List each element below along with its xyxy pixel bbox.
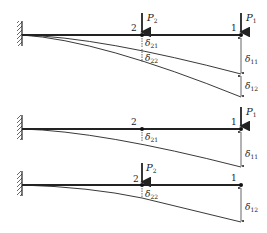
node-1 [239, 33, 243, 37]
node-2 [140, 183, 144, 187]
label-delta-12: δ12 [245, 81, 258, 92]
label-delta-22: δ22 [145, 53, 158, 64]
label-delta-21: δ21 [145, 38, 158, 49]
label-delta-11: δ11 [245, 54, 258, 65]
fixed-support-icon [17, 21, 22, 46]
node-2-label: 2 [131, 117, 137, 127]
load-label-p1: P1 [245, 12, 257, 24]
load-label-p2: P2 [146, 12, 158, 24]
node-1 [239, 183, 243, 187]
deflected-shape [22, 129, 241, 167]
node-1-label: 1 [231, 23, 237, 33]
label-delta-11: δ11 [245, 149, 258, 160]
node-2 [140, 33, 144, 37]
deflected-shape-p1 [22, 35, 241, 74]
node-1-label: 1 [231, 117, 237, 127]
panel-load-p2: 2 1 P2 δ22 δ12 [17, 162, 258, 222]
label-delta-21: δ21 [145, 132, 158, 143]
label-delta-22: δ22 [145, 189, 158, 200]
panel-load-p1: 2 1 P1 δ21 δ11 [17, 106, 258, 167]
node-2-label: 2 [133, 174, 139, 184]
panel-combined: 2 1 P2 P1 δ21 δ22 δ11 δ12 [17, 12, 258, 97]
node-1-label: 1 [231, 173, 237, 183]
load-label-p1: P1 [245, 106, 257, 118]
load-label-p2: P2 [145, 162, 157, 174]
label-delta-12: δ12 [245, 202, 258, 213]
node-2 [140, 127, 144, 131]
fixed-support-icon [17, 171, 22, 196]
node-1 [239, 127, 243, 131]
deflected-shape [22, 185, 241, 222]
fixed-support-icon [17, 115, 22, 140]
node-2-label: 2 [131, 23, 137, 33]
